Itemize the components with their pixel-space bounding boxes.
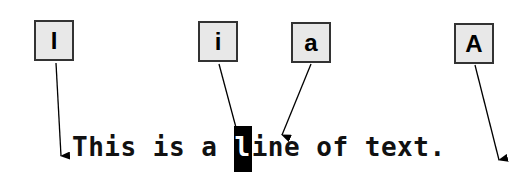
arrow-I [56, 63, 61, 156]
highlighted-cursor-char: l [234, 126, 252, 172]
text-before-cursor: This is a [72, 132, 234, 162]
text-after-cursor: ine of text. [252, 132, 446, 162]
sample-text-line: This is a line of text. [72, 132, 446, 162]
label-box-lower-a: a [291, 22, 331, 63]
label-box-capital-A: A [454, 23, 494, 64]
label-box-capital-I: I [34, 20, 74, 61]
arrow-A [475, 65, 499, 160]
arrow-a [282, 64, 311, 135]
label-box-lower-i: i [198, 21, 238, 62]
